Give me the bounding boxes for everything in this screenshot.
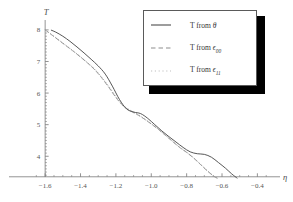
legend-swatch-dashed-line-icon [150,43,172,53]
legend-label-epsilon11: T from ϵ11 [190,65,221,76]
legend-swatch-dotted-line-icon [150,66,172,76]
y-axis-label: T [44,7,50,17]
x-tick-label: −1.2 [110,182,123,190]
y-tick-label: 4 [37,153,41,161]
y-tick-label: 5 [37,121,41,129]
x-tick-label: −1.6 [39,182,52,190]
x-tick-label: −0.8 [180,182,193,190]
legend-box: T from θ T from ϵ00 [143,10,257,86]
legend-item-epsilon00: T from ϵ00 [144,37,256,59]
x-tick-label: −0.4 [251,182,264,190]
legend-item-epsilon11: T from ϵ11 [144,60,256,82]
x-axis-label: η [283,172,287,182]
y-tick-label: 7 [37,58,41,66]
legend-swatch-solid-line-icon [150,20,172,30]
legend: T from θ T from ϵ00 [143,10,259,88]
legend-label-epsilon00: T from ϵ00 [190,43,221,54]
x-tick-label: −1.4 [74,182,87,190]
x-tick-label: −1.0 [145,182,158,190]
y-tick-label: 8 [37,26,41,34]
legend-label-theta: T from θ [190,21,216,30]
legend-item-theta: T from θ [144,14,256,36]
y-tick-label: 6 [37,90,41,98]
x-tick-label: −0.6 [216,182,229,190]
chart-figure: −1.6−1.4−1.2−1.0−0.8−0.6−0.445678 T η T … [0,0,293,202]
